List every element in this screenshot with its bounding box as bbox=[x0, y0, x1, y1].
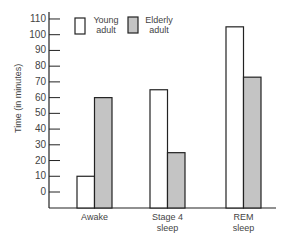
x-category-label: REM bbox=[214, 212, 274, 222]
legend-swatch-elderly bbox=[128, 17, 138, 33]
y-tick-label: 30 bbox=[20, 140, 46, 150]
y-tick-label: 40 bbox=[20, 124, 46, 134]
legend-label: adult bbox=[139, 25, 179, 35]
y-tick-label: 50 bbox=[20, 108, 46, 118]
legend-label: Young bbox=[86, 15, 126, 25]
legend-label: adult bbox=[86, 25, 126, 35]
y-tick-label: 110 bbox=[20, 14, 46, 24]
y-tick-label: 90 bbox=[20, 45, 46, 55]
legend-label: Elderly bbox=[139, 15, 179, 25]
bar-elderly-1 bbox=[168, 153, 186, 208]
y-axis-label: Time (in minutes) bbox=[13, 64, 23, 133]
x-category-label: sleep bbox=[214, 223, 274, 233]
y-tick-label: 20 bbox=[20, 156, 46, 166]
y-tick-label: 80 bbox=[20, 61, 46, 71]
bar-young-2 bbox=[226, 27, 244, 208]
x-category-label: sleep bbox=[138, 223, 198, 233]
x-category-label: Awake bbox=[65, 212, 125, 222]
x-category-label: Stage 4 bbox=[138, 212, 198, 222]
legend-swatch-young bbox=[75, 18, 85, 34]
bar-elderly-2 bbox=[244, 77, 262, 208]
y-tick-label: 70 bbox=[20, 77, 46, 87]
sleep-time-bar-chart: 0102030405060708090100110AwakeStage 4sle… bbox=[0, 0, 288, 242]
y-tick-label: 0 bbox=[20, 187, 46, 197]
y-tick-label: 100 bbox=[20, 30, 46, 40]
y-tick-label: 60 bbox=[20, 93, 46, 103]
bar-young-0 bbox=[77, 176, 95, 208]
y-tick-label: 10 bbox=[20, 171, 46, 181]
bar-elderly-0 bbox=[95, 98, 113, 208]
bar-young-1 bbox=[150, 90, 168, 208]
